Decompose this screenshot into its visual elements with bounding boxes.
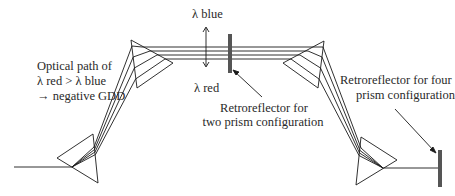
prism-1	[57, 134, 98, 183]
label-optical-path-3: → negative GDD	[37, 89, 125, 103]
pointer-arrow-retroreflector-two	[233, 70, 262, 97]
prism-4	[356, 137, 397, 185]
retroreflector-four-prism	[438, 150, 442, 187]
label-retroreflector-four-1: Retroreflector for four	[340, 73, 452, 87]
dispersion-fan-prism-1	[72, 147, 96, 167]
label-retroreflector-two-1: Retroreflector for	[204, 101, 324, 115]
retroreflector-two-prism	[228, 34, 232, 73]
prism-compressor-diagram: λ blue λ red Optical path of λ red > λ b…	[0, 0, 455, 196]
pointer-arrow-retroreflector-four	[395, 109, 436, 153]
label-retroreflector-two-2: two prism configuration	[188, 115, 338, 129]
converging-fan-prism-4	[359, 148, 383, 168]
label-optical-path-1: Optical path of	[37, 59, 112, 73]
beams-p3-to-p4	[319, 47, 361, 156]
label-lambda-red: λ red	[194, 81, 219, 95]
prism-3	[283, 41, 324, 88]
label-retroreflector-four-2: prism configuration	[356, 88, 455, 102]
internal-beams-prism-3	[291, 47, 323, 79]
label-lambda-blue: λ blue	[192, 7, 223, 21]
label-optical-path-2: λ red > λ blue	[37, 74, 106, 88]
